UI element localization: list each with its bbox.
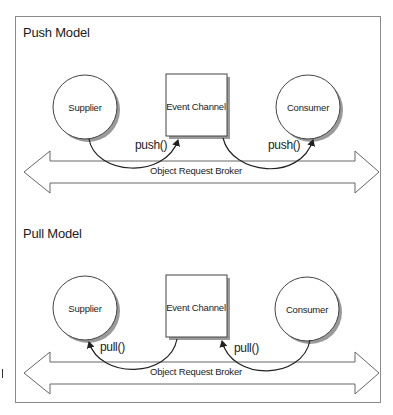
margin-mark <box>2 369 3 378</box>
pull-supplier-label: Supplier <box>68 303 101 314</box>
push-consumer-label: Consumer <box>287 102 329 113</box>
pull-call-label-left: pull() <box>100 340 125 354</box>
pull-model-title: Pull Model <box>23 226 82 241</box>
push-model-title: Push Model <box>23 25 90 40</box>
diagram-frame <box>15 16 381 403</box>
pull-call-label-right: pull() <box>234 341 259 355</box>
push-event-channel-label: Event Channel <box>166 101 226 112</box>
push-call-label-left: push() <box>135 138 167 152</box>
pull-orb-label: Object Request Broker <box>150 366 242 377</box>
push-supplier-label: Supplier <box>68 102 101 113</box>
pull-consumer-label: Consumer <box>286 304 328 315</box>
pull-event-channel-label: Event Channel <box>166 302 226 313</box>
push-call-label-right: push() <box>268 138 300 152</box>
push-orb-label: Object Request Broker <box>150 165 242 176</box>
